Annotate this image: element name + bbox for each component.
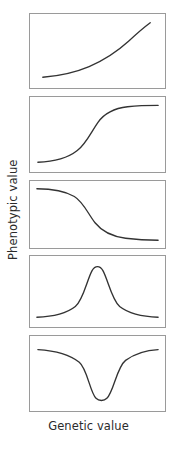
plot-panel-sigmoid-decreasing [29, 180, 166, 249]
curve-sigmoid-decreasing [37, 189, 158, 240]
curve-gaussian-peak [37, 267, 158, 318]
curve-gaussian-trough [38, 350, 158, 401]
curve-svg-panel-4 [30, 256, 165, 327]
x-axis-label-text: Genetic value [48, 419, 129, 433]
curve-svg-panel-3 [30, 181, 165, 248]
y-axis-label: Phenotypic value [0, 0, 28, 420]
plot-panel-gaussian-peak [29, 255, 166, 328]
curve-sigmoid-increasing [38, 105, 158, 162]
curve-svg-panel-5 [30, 336, 165, 411]
curve-svg-panel-2 [30, 97, 165, 172]
plot-panel-gaussian-trough [29, 335, 166, 412]
y-axis-label-text: Phenotypic value [8, 160, 20, 260]
curve-exponential-increasing [43, 23, 150, 78]
panel-stack [29, 13, 166, 412]
curve-svg-panel-1 [30, 14, 165, 88]
plot-panel-sigmoid-increasing [29, 96, 166, 173]
x-axis-label: Genetic value [0, 421, 177, 433]
figure-root: Phenotypic value [0, 0, 177, 451]
plot-panel-exponential-increasing [29, 13, 166, 89]
